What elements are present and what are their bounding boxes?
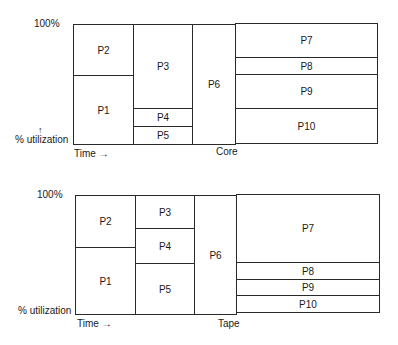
process-block-p10: P10 [236,295,380,313]
resource-label-core: Core [216,146,238,157]
process-block-p4: P4 [133,108,193,127]
process-block-p3: P3 [135,195,195,229]
process-block-p8: P8 [235,57,378,75]
y-axis-label: % utilization [18,305,71,316]
resource-label-tape: Tape [218,318,240,329]
process-block-p6: P6 [194,195,237,315]
process-block-p5: P5 [133,126,193,145]
process-block-p2: P2 [75,195,136,248]
y-axis-label: % utilization [15,134,68,145]
process-block-p6: P6 [192,24,236,145]
process-block-p2: P2 [73,24,134,76]
process-block-p9: P9 [235,74,378,109]
process-block-p9: P9 [236,279,380,296]
x-axis-label: Time → [77,318,112,329]
process-block-p3: P3 [133,24,193,109]
process-block-p5: P5 [135,263,195,315]
x-axis-label: Time → [74,148,109,159]
process-block-p7: P7 [236,194,380,263]
process-block-p7: P7 [235,23,378,58]
process-block-p10: P10 [235,108,378,144]
y-axis-top-label: 100% [37,189,63,200]
process-block-p1: P1 [75,247,136,315]
process-block-p1: P1 [73,75,134,145]
y-axis-top-label: 100% [34,18,60,29]
process-block-p4: P4 [135,228,195,264]
process-block-p8: P8 [236,262,380,280]
